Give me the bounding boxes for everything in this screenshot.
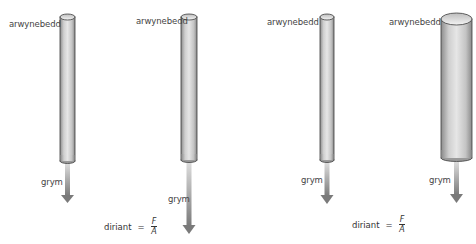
- formula-equals: =: [138, 222, 145, 232]
- force-label-3: grym: [301, 175, 323, 185]
- stress-formula-2: diriant = F A: [352, 215, 405, 234]
- formula-lhs: diriant: [352, 220, 380, 230]
- area-label-2: arwynebedd: [136, 16, 188, 26]
- force-arrow-4: [450, 162, 463, 203]
- formula-numerator: F: [399, 215, 406, 225]
- force-label-1: grym: [41, 177, 63, 187]
- stress-formula-1: diriant = F A: [104, 217, 157, 236]
- force-arrow-1: [61, 164, 74, 203]
- formula-fraction: F A: [151, 217, 158, 236]
- force-label-4: grym: [429, 175, 451, 185]
- area-label-3: arwynebedd: [267, 17, 319, 27]
- pipe-4: [441, 13, 472, 162]
- force-label-2: grym: [168, 194, 190, 204]
- area-label-4: arwynebedd: [389, 17, 441, 27]
- diagram-canvas: [0, 0, 476, 244]
- formula-numerator: F: [151, 217, 158, 227]
- formula-equals: =: [386, 220, 393, 230]
- pipe-1: [60, 14, 75, 164]
- formula-fraction: F A: [399, 215, 406, 234]
- pipe-2: [181, 14, 197, 163]
- formula-lhs: diriant: [104, 222, 132, 232]
- formula-denominator: A: [399, 225, 404, 234]
- formula-denominator: A: [151, 227, 156, 236]
- area-label-1: arwynebedd: [9, 19, 61, 29]
- pipe-3: [320, 14, 334, 163]
